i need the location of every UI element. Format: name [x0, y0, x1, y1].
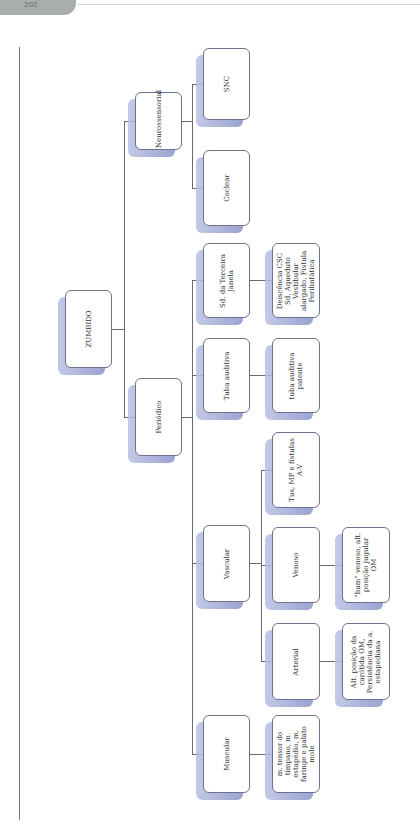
node-deiscencia: Deiscência CSC Sd. Aqueduto Vestibular a… [272, 243, 320, 318]
node-neurossensorial: Neurossensorial [135, 92, 182, 150]
node-coclear: Coclear [203, 150, 250, 226]
node-muscular: Muscular [203, 715, 250, 793]
node-arterial: Arterial [272, 623, 320, 700]
node-terceira-janela: Sd. da Terceira Janela [203, 243, 250, 318]
node-tuba-auditiva: Tuba auditiva [203, 338, 250, 413]
page-number: 202 [24, 0, 37, 9]
node-snc: SNC [203, 48, 250, 120]
node-alt-posicao: Alt. posição da carótida OM, Persistênci… [342, 623, 390, 700]
header-rule [78, 4, 420, 5]
page-number-tab: 202 [0, 0, 76, 15]
node-tus-mp-fistulas: Tus, MP e fístulas A-V [272, 432, 320, 508]
node-m-tensor: m. tensor do tímpano, m. estapédio, m. f… [272, 715, 320, 793]
node-tuba-patente: tuba auditiva patente [272, 338, 320, 413]
margin-rule [19, 47, 20, 820]
node-zumbido: ZUMBIDO [65, 290, 112, 368]
node-vascular: Vascular [203, 525, 250, 602]
node-hum-venoso: "hum" venoso, alt. posição jugular OM [342, 527, 390, 603]
node-periodico: Periódico [135, 378, 182, 456]
node-venoso: Venoso [272, 527, 320, 603]
